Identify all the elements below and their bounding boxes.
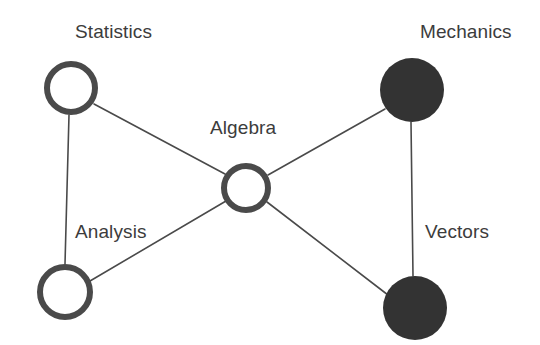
node-label-statistics: Statistics xyxy=(75,22,152,42)
graph-node-analysis[interactable] xyxy=(40,267,90,317)
graph-node-mechanics[interactable] xyxy=(380,58,444,122)
graph-node-statistics[interactable] xyxy=(47,64,95,112)
node-label-algebra: Algebra xyxy=(210,118,276,138)
graph-node-vectors[interactable] xyxy=(383,276,447,340)
graph-edge-algebra-mechanics xyxy=(268,109,385,175)
graph-edge-mechanics-vectors xyxy=(411,122,413,276)
graph-canvas xyxy=(0,0,540,345)
node-label-vectors: Vectors xyxy=(425,222,489,242)
node-label-analysis: Analysis xyxy=(75,222,147,242)
graph-edge-statistics-algebra xyxy=(94,104,225,174)
node-label-mechanics: Mechanics xyxy=(420,22,512,42)
node-layer xyxy=(40,58,447,340)
graph-edge-statistics-analysis xyxy=(65,115,69,264)
graph-node-algebra[interactable] xyxy=(224,166,268,210)
graph-edge-algebra-vectors xyxy=(267,202,388,295)
network-diagram: StatisticsAlgebraMechanicsAnalysisVector… xyxy=(0,0,540,345)
